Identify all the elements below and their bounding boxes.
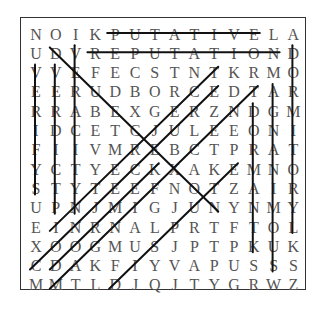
grid-cell[interactable]: K <box>85 25 105 44</box>
grid-cell[interactable]: X <box>125 102 145 121</box>
grid-cell[interactable]: K <box>224 63 244 82</box>
grid-cell[interactable]: O <box>244 44 264 63</box>
grid-cell[interactable]: E <box>224 121 244 140</box>
grid-cell[interactable]: M <box>244 160 264 179</box>
grid-cell[interactable]: R <box>244 63 264 82</box>
grid-cell[interactable]: I <box>125 198 145 217</box>
grid-cell[interactable]: W <box>264 275 284 294</box>
grid-cell[interactable]: A <box>184 256 204 275</box>
grid-cell[interactable]: Y <box>204 275 224 294</box>
grid-cell[interactable]: A <box>66 102 86 121</box>
grid-cell[interactable]: U <box>26 198 46 217</box>
grid-cell[interactable]: J <box>165 275 185 294</box>
grid-cell[interactable]: M <box>283 102 303 121</box>
grid-cell[interactable]: Y <box>224 198 244 217</box>
grid-cell[interactable]: N <box>26 25 46 44</box>
grid-cell[interactable]: N <box>66 218 86 237</box>
grid-cell[interactable]: E <box>105 179 125 198</box>
grid-cell[interactable]: M <box>264 63 284 82</box>
grid-cell[interactable]: M <box>105 140 125 159</box>
grid-cell[interactable]: M <box>264 198 284 217</box>
grid-cell[interactable]: T <box>66 275 86 294</box>
grid-cell[interactable]: L <box>184 121 204 140</box>
grid-cell[interactable]: M <box>105 198 125 217</box>
grid-cell[interactable]: A <box>184 160 204 179</box>
grid-cell[interactable]: T <box>46 179 66 198</box>
grid-cell[interactable]: N <box>184 63 204 82</box>
grid-cell[interactable]: T <box>204 237 224 256</box>
grid-cell[interactable]: S <box>264 256 284 275</box>
grid-cell[interactable]: A <box>264 140 284 159</box>
grid-cell[interactable]: E <box>204 82 224 101</box>
grid-cell[interactable]: X <box>26 237 46 256</box>
grid-cell[interactable]: F <box>26 140 46 159</box>
grid-cell[interactable]: F <box>105 256 125 275</box>
grid-cell[interactable]: Y <box>66 179 86 198</box>
grid-cell[interactable]: J <box>165 237 185 256</box>
grid-cell[interactable]: S <box>145 237 165 256</box>
grid-cell[interactable]: A <box>244 179 264 198</box>
grid-cell[interactable]: R <box>85 44 105 63</box>
grid-cell[interactable]: T <box>184 275 204 294</box>
grid-cell[interactable]: N <box>264 160 284 179</box>
grid-cell[interactable]: T <box>66 160 86 179</box>
grid-cell[interactable]: P <box>46 198 66 217</box>
grid-cell[interactable]: L <box>283 218 303 237</box>
grid-cell[interactable]: E <box>85 121 105 140</box>
grid-cell[interactable]: M <box>105 237 125 256</box>
grid-cell[interactable]: C <box>184 140 204 159</box>
grid-cell[interactable]: D <box>46 121 66 140</box>
grid-cell[interactable]: E <box>165 102 185 121</box>
grid-cell[interactable]: E <box>105 44 125 63</box>
grid-cell[interactable]: D <box>224 82 244 101</box>
grid-cell[interactable]: N <box>66 198 86 217</box>
grid-cell[interactable]: P <box>204 256 224 275</box>
grid-cell[interactable]: C <box>125 63 145 82</box>
grid-cell[interactable]: R <box>184 218 204 237</box>
grid-cell[interactable]: J <box>145 121 165 140</box>
grid-cell[interactable]: P <box>105 25 125 44</box>
grid-cell[interactable]: Q <box>145 275 165 294</box>
grid-cell[interactable]: V <box>85 140 105 159</box>
grid-cell[interactable]: O <box>283 63 303 82</box>
grid-cell[interactable]: Z <box>224 179 244 198</box>
grid-cell[interactable]: U <box>264 237 284 256</box>
grid-cell[interactable]: I <box>125 256 145 275</box>
grid-cell[interactable]: I <box>204 25 224 44</box>
grid-cell[interactable]: T <box>244 82 264 101</box>
grid-cell[interactable]: P <box>224 140 244 159</box>
grid-cell[interactable]: O <box>264 218 284 237</box>
grid-cell[interactable]: E <box>204 121 224 140</box>
grid-cell[interactable]: B <box>165 140 185 159</box>
grid-cell[interactable]: Z <box>204 102 224 121</box>
grid-cell[interactable]: T <box>283 140 303 159</box>
grid-cell[interactable]: F <box>145 179 165 198</box>
grid-cell[interactable]: P <box>184 237 204 256</box>
grid-cell[interactable]: K <box>204 160 224 179</box>
grid-cell[interactable]: U <box>145 44 165 63</box>
grid-cell[interactable]: E <box>244 25 264 44</box>
grid-cell[interactable]: R <box>184 102 204 121</box>
grid-cell[interactable]: C <box>66 121 86 140</box>
grid-cell[interactable]: U <box>184 198 204 217</box>
grid-cell[interactable]: L <box>85 275 105 294</box>
grid-cell[interactable]: D <box>283 44 303 63</box>
grid-cell[interactable]: T <box>204 218 224 237</box>
grid-cell[interactable]: M <box>46 275 66 294</box>
grid-cell[interactable]: A <box>264 82 284 101</box>
grid-cell[interactable]: P <box>165 218 185 237</box>
grid-cell[interactable]: C <box>125 121 145 140</box>
grid-cell[interactable]: Y <box>85 160 105 179</box>
grid-cell[interactable]: E <box>105 63 125 82</box>
grid-cell[interactable]: E <box>125 179 145 198</box>
grid-cell[interactable]: V <box>46 63 66 82</box>
grid-cell[interactable]: N <box>204 198 224 217</box>
grid-cell[interactable]: I <box>66 140 86 159</box>
grid-cell[interactable]: T <box>204 140 224 159</box>
grid-cell[interactable]: A <box>283 25 303 44</box>
grid-cell[interactable]: O <box>244 121 264 140</box>
grid-cell[interactable]: S <box>145 63 165 82</box>
grid-cell[interactable]: O <box>46 25 66 44</box>
grid-cell[interactable]: E <box>105 102 125 121</box>
grid-cell[interactable]: N <box>264 121 284 140</box>
